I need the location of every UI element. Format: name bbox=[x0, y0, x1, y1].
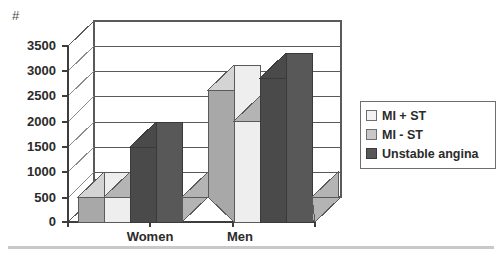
legend-item-mi-plus-st[interactable]: MI + ST bbox=[366, 106, 490, 125]
bar-side-face bbox=[78, 197, 104, 222]
y-tick-label-2500: 2500 bbox=[2, 88, 56, 103]
legend-swatch-mi-plus-st-icon bbox=[366, 110, 377, 121]
x-category-label-men: Men bbox=[190, 229, 290, 244]
chart-figure: # 3500 3000 2500 2000 1500 1000 500 0 Wo… bbox=[0, 0, 504, 260]
bar-front-face bbox=[286, 53, 312, 222]
legend-swatch-mi-minus-st-icon bbox=[366, 129, 377, 140]
y-axis-ticks bbox=[62, 46, 68, 222]
bottom-divider bbox=[8, 246, 494, 249]
y-tick-label-3500: 3500 bbox=[2, 38, 56, 53]
bar-side-face bbox=[130, 147, 156, 222]
x-category-label-women: Women bbox=[100, 229, 200, 244]
y-tick-label-3000: 3000 bbox=[2, 63, 56, 78]
bar-men-unstable-angina bbox=[260, 53, 312, 222]
y-tick-label-1500: 1500 bbox=[2, 139, 56, 154]
bar-front-face bbox=[234, 65, 260, 222]
bar-side-face bbox=[260, 78, 286, 222]
y-tick-label-2000: 2000 bbox=[2, 114, 56, 129]
y-tick-label-1000: 1000 bbox=[2, 164, 56, 179]
y-axis-unit-label: # bbox=[12, 8, 19, 23]
y-tick-label-0: 0 bbox=[2, 214, 56, 229]
y-tick-label-500: 500 bbox=[2, 190, 56, 205]
chart-legend: MI + ST MI - ST Unstable angina bbox=[360, 101, 496, 169]
legend-label-mi-plus-st: MI + ST bbox=[382, 109, 426, 123]
floor-wedge-men-2 bbox=[312, 197, 341, 222]
bar-front-face-lower bbox=[104, 197, 130, 222]
legend-item-mi-minus-st[interactable]: MI - ST bbox=[366, 125, 490, 144]
bar-front-face bbox=[156, 122, 182, 222]
x-axis-ticks bbox=[68, 222, 315, 227]
legend-label-mi-minus-st: MI - ST bbox=[382, 128, 423, 142]
bar-men-mi-plus-st bbox=[208, 65, 260, 222]
legend-swatch-unstable-angina-icon bbox=[366, 148, 377, 159]
legend-label-unstable-angina: Unstable angina bbox=[382, 147, 479, 161]
legend-item-unstable-angina[interactable]: Unstable angina bbox=[366, 144, 490, 163]
